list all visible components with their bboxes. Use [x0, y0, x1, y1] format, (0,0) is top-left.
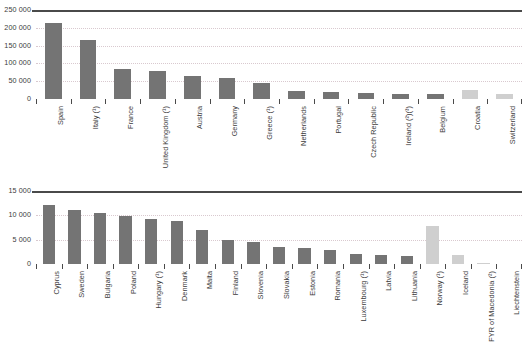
y-tick-label: 150 000: [4, 42, 31, 49]
y-tick-label: 5 000: [13, 236, 32, 243]
bar: [452, 255, 464, 264]
category-label: Cyprus: [53, 271, 61, 294]
category-label: United Kingdom (¹): [161, 106, 169, 168]
x-axis-ticks-top: [36, 99, 522, 104]
y-axis-top: 050 000100 000150 000200 000250 000: [0, 10, 34, 99]
x-axis-tick: [317, 264, 343, 269]
bar-slot: [105, 10, 140, 99]
x-axis-tick: [71, 99, 106, 104]
bar-slot: [348, 10, 383, 99]
bar: [80, 40, 97, 99]
bar-slot: [164, 191, 190, 264]
y-tick-label: 200 000: [4, 24, 31, 31]
x-axis-tick: [189, 264, 215, 269]
x-axis-tick: [420, 264, 446, 269]
bar-slot: [210, 10, 245, 99]
category-label: Netherlands: [300, 106, 308, 146]
bar: [247, 242, 259, 264]
bar: [462, 90, 479, 99]
bar: [219, 78, 236, 99]
x-axis-tick: [348, 99, 383, 104]
category-label: Slovakia: [283, 271, 291, 299]
category-label: FYR of Macedonia (²): [487, 271, 495, 342]
x-axis-tick: [418, 99, 453, 104]
category-label: Bulgaria: [104, 271, 112, 298]
category-label: Liechtenstein: [513, 271, 521, 315]
category-label: Finland: [232, 271, 240, 295]
category-label: Belgium: [439, 106, 447, 133]
bar: [114, 69, 131, 99]
bar: [68, 210, 80, 264]
x-axis-tick: [36, 99, 71, 104]
bar-slot: [62, 191, 88, 264]
category-label: Czech Republic: [370, 106, 378, 158]
bar-series-bottom: [36, 191, 522, 264]
bar: [324, 250, 336, 264]
bar-slot: [244, 10, 279, 99]
bar: [149, 71, 166, 99]
bar-slot: [420, 191, 446, 264]
bar-slot: [215, 191, 241, 264]
x-axis-tick: [215, 264, 241, 269]
category-label: Greece (¹): [265, 106, 273, 140]
category-label: Iceland: [462, 271, 470, 295]
category-label: Hungary (¹): [155, 271, 163, 308]
x-axis-tick: [138, 264, 164, 269]
bar-slot: [113, 191, 139, 264]
bar: [94, 213, 106, 264]
x-axis-tick: [241, 264, 267, 269]
category-label: Spain: [57, 106, 65, 125]
x-axis-tick: [314, 99, 349, 104]
x-axis-tick: [87, 264, 113, 269]
plot-area-bottom: [36, 191, 522, 264]
bar-slot: [292, 191, 318, 264]
bar-slot: [445, 191, 471, 264]
category-label: Malta: [206, 271, 214, 289]
x-axis-tick: [445, 264, 471, 269]
x-axis-tick: [279, 99, 314, 104]
y-tick-label: 15 000: [8, 187, 31, 194]
bar: [119, 216, 131, 264]
x-axis-line-top: [32, 10, 522, 12]
x-axis-tick: [471, 264, 497, 269]
x-axis-tick: [105, 99, 140, 104]
category-label: Germany: [231, 106, 239, 136]
bar: [145, 219, 157, 264]
category-label: Estonia: [308, 271, 316, 296]
bar: [171, 221, 183, 264]
bar-slot: [279, 10, 314, 99]
y-tick-label: 0: [27, 260, 31, 267]
bar-slot: [266, 191, 292, 264]
category-label: Croatia: [474, 106, 482, 130]
bar-slot: [71, 10, 106, 99]
category-label: Norway (¹): [436, 271, 444, 306]
x-axis-line-bottom: [32, 191, 522, 193]
bar-slot: [36, 191, 62, 264]
category-label: Poland: [129, 271, 137, 294]
bar: [43, 205, 55, 264]
bar-slot: [138, 191, 164, 264]
bar-slot: [140, 10, 175, 99]
bar-slot: [36, 10, 71, 99]
category-label: Sweden: [78, 271, 86, 298]
plot-area-top: [36, 10, 522, 99]
bar: [253, 83, 270, 99]
y-axis-bottom: 05 00010 00015 000: [0, 191, 34, 264]
bar-slot: [317, 191, 343, 264]
bar-slot: [175, 10, 210, 99]
x-axis-tick: [369, 264, 395, 269]
bar-chart-top: 050 000100 000150 000200 000250 000 Spai…: [0, 0, 526, 175]
x-axis-tick: [62, 264, 88, 269]
bar: [273, 247, 285, 264]
bar-slot: [314, 10, 349, 99]
bar-chart-bottom: 05 00010 00015 000 CyprusSwedenBulgariaP…: [0, 175, 526, 351]
x-axis-tick: [496, 264, 522, 269]
category-label: France: [127, 106, 135, 129]
y-tick-label: 250 000: [4, 6, 31, 13]
y-tick-label: 50 000: [8, 78, 31, 85]
x-axis-tick: [292, 264, 318, 269]
x-axis-tick: [487, 99, 522, 104]
x-axis-tick: [164, 264, 190, 269]
bar-slot: [496, 191, 522, 264]
x-axis-tick: [210, 99, 245, 104]
